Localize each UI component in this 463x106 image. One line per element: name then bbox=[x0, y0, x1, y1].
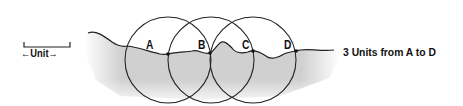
point-label-d: D bbox=[284, 38, 291, 52]
point-b-marker bbox=[208, 51, 212, 55]
diagram-stage: A B C D ←Unit→ 3 Units from A to D bbox=[0, 0, 463, 106]
unit-label: ←Unit→ bbox=[21, 47, 58, 59]
point-label-c: C bbox=[242, 38, 249, 52]
distance-caption: 3 Units from A to D bbox=[343, 46, 436, 58]
point-label-a: A bbox=[146, 38, 153, 52]
point-c-marker bbox=[251, 49, 255, 53]
point-label-b: B bbox=[198, 38, 205, 52]
point-a-marker bbox=[166, 52, 170, 56]
point-d-marker bbox=[294, 49, 298, 53]
